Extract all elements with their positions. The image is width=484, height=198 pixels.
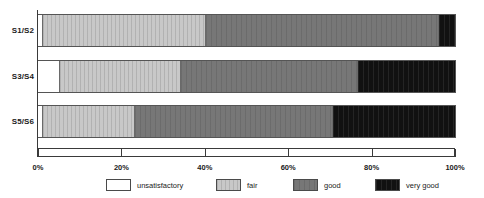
axis-tick-label: 0%	[33, 163, 44, 172]
legend-item-verygood[interactable]: very good	[375, 178, 439, 192]
bar-segment-fair	[42, 106, 134, 137]
axis-tick-label: 40%	[197, 163, 212, 172]
legend-swatch-verygood	[375, 179, 400, 191]
legend-label-good: good	[324, 181, 341, 190]
bar-segment-good	[134, 106, 332, 137]
axis-tick-label: 20%	[114, 163, 129, 172]
bar-row-s3-s4	[38, 60, 456, 93]
axis-tick	[455, 149, 456, 157]
category-label-s3-s4: S3/S4	[0, 72, 34, 81]
bar-row-s1-s2	[38, 14, 456, 47]
bar-segment-unsatisfactory	[38, 61, 59, 92]
legend-label-unsatisfactory: unsatisfactory	[137, 181, 183, 190]
bar-segment-good	[205, 15, 439, 46]
bar-segment-very-good	[357, 61, 455, 92]
bar-segment-very-good	[332, 106, 455, 137]
axis-tick	[372, 149, 373, 157]
axis-tick-label: 100%	[445, 163, 464, 172]
legend-item-good[interactable]: good	[293, 178, 341, 192]
category-label-s1-s2: S1/S2	[0, 26, 34, 35]
chart-legend: unsatisfactoryfairgoodvery good	[38, 178, 455, 194]
bar-segment-fair	[59, 61, 180, 92]
axis-tick	[288, 149, 289, 157]
category-label-s5-s6: S5/S6	[0, 117, 34, 126]
axis-tick	[205, 149, 206, 157]
bar-segment-very-good	[438, 15, 455, 46]
bar-segment-good	[180, 61, 357, 92]
bar-segment-fair	[42, 15, 205, 46]
axis-tick	[38, 149, 39, 157]
legend-label-verygood: very good	[406, 181, 439, 190]
axis-tick-label: 80%	[364, 163, 379, 172]
legend-swatch-good	[293, 179, 318, 191]
legend-label-fair: fair	[247, 181, 257, 190]
legend-swatch-unsatisfactory	[106, 179, 131, 191]
legend-item-unsatisfactory[interactable]: unsatisfactory	[106, 178, 183, 192]
legend-swatch-fair	[216, 179, 241, 191]
axis-tick-label: 60%	[281, 163, 296, 172]
legend-item-fair[interactable]: fair	[216, 178, 257, 192]
value-axis	[37, 148, 455, 157]
bar-row-s5-s6	[38, 105, 456, 138]
stacked-bar-chart: S1/S2 S3/S4 S5/S6 0%20%40%60%80%100% uns…	[0, 0, 484, 198]
axis-tick	[121, 149, 122, 157]
